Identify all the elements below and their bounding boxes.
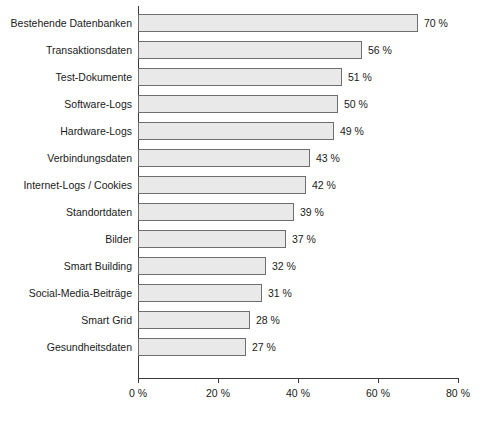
x-axis-tick — [458, 378, 459, 383]
x-axis-tick — [138, 378, 139, 383]
category-label: Hardware-Logs — [0, 124, 132, 138]
category-label: Verbindungsdaten — [0, 151, 132, 165]
bar — [138, 203, 294, 221]
bar — [138, 149, 310, 167]
bar-value-label: 50 % — [344, 97, 368, 111]
bar-row: 49 % — [138, 122, 458, 140]
bar — [138, 257, 266, 275]
bar — [138, 338, 246, 356]
category-label: Internet-Logs / Cookies — [0, 178, 132, 192]
category-label: Transaktionsdaten — [0, 43, 132, 57]
bar-row: 37 % — [138, 230, 458, 248]
bar-row: 70 % — [138, 14, 458, 32]
bar — [138, 122, 334, 140]
bar-row: 39 % — [138, 203, 458, 221]
category-label: Standortdaten — [0, 205, 132, 219]
category-label: Social-Media-Beiträge — [0, 286, 132, 300]
category-label: Test-Dokumente — [0, 70, 132, 84]
bar — [138, 176, 306, 194]
bar-row: 50 % — [138, 95, 458, 113]
bar-row: 43 % — [138, 149, 458, 167]
bar-chart-plot-area: 0 %20 %40 %60 %80 %70 %56 %51 %50 %49 %4… — [138, 6, 458, 378]
bar — [138, 284, 262, 302]
category-label: Smart Building — [0, 259, 132, 273]
category-label: Bilder — [0, 232, 132, 246]
x-axis-tick-label: 60 % — [366, 387, 390, 399]
category-label: Gesundheitsdaten — [0, 340, 132, 354]
figure-container: 0 %20 %40 %60 %80 %70 %56 %51 %50 %49 %4… — [0, 0, 490, 422]
bar-value-label: 39 % — [300, 205, 324, 219]
bar-row: 42 % — [138, 176, 458, 194]
bar-row: 31 % — [138, 284, 458, 302]
bar — [138, 68, 342, 86]
bar-row: 56 % — [138, 41, 458, 59]
category-label: Software-Logs — [0, 97, 132, 111]
x-axis-tick — [378, 378, 379, 383]
bar-row: 27 % — [138, 338, 458, 356]
bar-value-label: 31 % — [268, 286, 292, 300]
bar-value-label: 49 % — [340, 124, 364, 138]
bar-value-label: 27 % — [252, 340, 276, 354]
x-axis-tick — [218, 378, 219, 383]
x-axis-tick-label: 0 % — [129, 387, 147, 399]
bar-row: 51 % — [138, 68, 458, 86]
bar — [138, 230, 286, 248]
category-label: Bestehende Datenbanken — [0, 16, 132, 30]
x-axis-tick-label: 80 % — [446, 387, 470, 399]
bar-value-label: 51 % — [348, 70, 372, 84]
x-axis-tick-label: 40 % — [286, 387, 310, 399]
x-axis-tick — [298, 378, 299, 383]
bar-value-label: 70 % — [424, 16, 448, 30]
bar — [138, 95, 338, 113]
bar-value-label: 32 % — [272, 259, 296, 273]
x-axis-tick-label: 20 % — [206, 387, 230, 399]
bar-row: 28 % — [138, 311, 458, 329]
bar — [138, 311, 250, 329]
bar-value-label: 56 % — [368, 43, 392, 57]
bar — [138, 14, 418, 32]
bar — [138, 41, 362, 59]
figure-caption — [24, 409, 444, 422]
bar-value-label: 37 % — [292, 232, 316, 246]
bar-row: 32 % — [138, 257, 458, 275]
bar-value-label: 42 % — [312, 178, 336, 192]
bar-value-label: 28 % — [256, 313, 280, 327]
category-label: Smart Grid — [0, 313, 132, 327]
bar-value-label: 43 % — [316, 151, 340, 165]
